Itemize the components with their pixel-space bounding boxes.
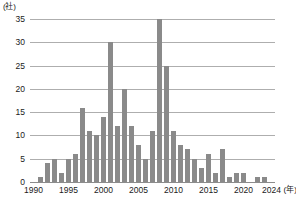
bar-2005: [136, 145, 140, 182]
bar-1995: [66, 159, 70, 182]
y-tick-label-25: 25: [16, 61, 25, 70]
y-tick-label-35: 35: [16, 15, 25, 24]
bar-2008: [157, 19, 161, 182]
bar-2009: [164, 66, 168, 182]
bar-2003: [122, 89, 126, 182]
bar-2007: [150, 131, 154, 182]
bar-1996: [73, 154, 77, 182]
bar-chart: (社) 05101520253035 199019952000200520102…: [0, 0, 296, 213]
bar-1998: [87, 131, 91, 182]
x-tick-label-1995: 1995: [59, 185, 78, 195]
y-tick-label-20: 20: [16, 84, 25, 93]
y-tick-label-5: 5: [20, 154, 25, 163]
bar-2010: [171, 131, 175, 182]
x-tick-label-1990: 1990: [24, 185, 43, 195]
y-tick-label-15: 15: [16, 108, 25, 117]
y-tick-label-30: 30: [16, 38, 25, 47]
bar-2011: [178, 145, 182, 182]
bar-2006: [143, 159, 147, 182]
x-tick-label-2024: 2024: [262, 185, 281, 195]
bar-2004: [129, 126, 133, 182]
x-tick-label-2005: 2005: [129, 185, 148, 195]
bar-2019: [234, 173, 238, 182]
y-tick-label-10: 10: [16, 131, 25, 140]
bar-2017: [220, 149, 224, 182]
bar-1993: [52, 159, 56, 182]
gridline-0: [30, 182, 275, 183]
bar-2023: [262, 177, 266, 182]
x-tick-label-2000: 2000: [94, 185, 113, 195]
bar-1992: [45, 163, 49, 182]
x-tick-label-2020: 2020: [234, 185, 253, 195]
bar-1999: [94, 135, 98, 182]
bar-1991: [38, 177, 42, 182]
bar-2002: [115, 126, 119, 182]
x-tick-label-2015: 2015: [199, 185, 218, 195]
bar-2022: [255, 177, 259, 182]
plot-area: [30, 19, 275, 182]
bar-2014: [199, 168, 203, 182]
x-tick-label-2010: 2010: [164, 185, 183, 195]
bar-1994: [59, 173, 63, 182]
bar-2012: [185, 149, 189, 182]
x-axis-tick-labels: 19901995200020052010201520202024(年): [30, 185, 275, 199]
bar-2018: [227, 177, 231, 182]
bar-series: [30, 19, 275, 182]
bar-1997: [80, 108, 84, 183]
x-axis-unit-label: (年): [284, 185, 297, 195]
bar-2000: [101, 117, 105, 182]
y-axis-tick-labels: 05101520253035: [0, 19, 28, 182]
bar-2013: [192, 159, 196, 182]
y-axis-unit-label: (社): [3, 2, 16, 12]
bar-2015: [206, 154, 210, 182]
bar-2001: [108, 42, 112, 182]
bar-2016: [213, 173, 217, 182]
bar-2020: [241, 173, 245, 182]
